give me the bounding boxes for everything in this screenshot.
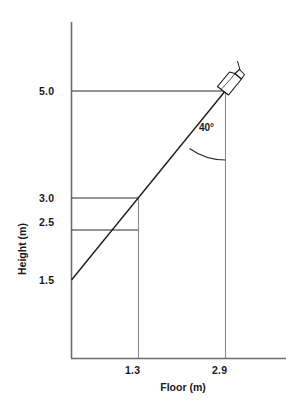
x-tick-label-1point3: 1.3 [125, 364, 140, 376]
axis-group [71, 22, 286, 359]
beam-line [72, 90, 227, 280]
angle-arc-group [190, 149, 226, 161]
y-tick-label-3: 3.0 [39, 192, 54, 204]
y-tick-label-5: 5.0 [39, 85, 54, 97]
angle-arc [190, 149, 226, 161]
diagram-figure: 5.0 3.0 2.5 1.5 1.3 2.9 Height (m) Floor… [0, 0, 293, 412]
angle-annotation-label: 40° [199, 122, 214, 133]
projector-mount-icon [238, 61, 241, 70]
beam-line-group [72, 90, 227, 280]
y-tick-label-2point5: 2.5 [39, 216, 54, 228]
y-axis-title: Height (m) [16, 209, 28, 289]
x-tick-label-2point9: 2.9 [212, 364, 227, 376]
y-tick-label-1point5: 1.5 [39, 274, 54, 286]
x-axis-title: Floor (m) [108, 381, 258, 393]
diagram-canvas [0, 0, 293, 412]
projector-icon [218, 61, 245, 95]
